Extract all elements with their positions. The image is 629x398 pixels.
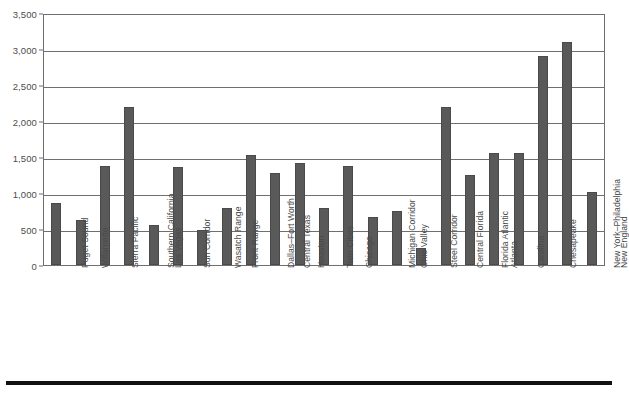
y-axis-tick-label: 2,500 [13, 81, 37, 92]
bar-slot [531, 15, 555, 265]
bars-layer [44, 15, 604, 265]
x-label-slot: Chesapeake [532, 268, 556, 373]
x-label-slot: Ohio Valley [385, 268, 409, 373]
bar-slot [44, 15, 68, 265]
x-label-slot: Michigan Corridor [361, 268, 385, 373]
x-axis-tick-label: Chesapeake [568, 219, 578, 268]
x-axis-tick-label: Dallas–Fort Worth [286, 198, 296, 268]
bar-slot [312, 15, 336, 265]
x-label-slot: Dallas–Fort Worth [239, 268, 263, 373]
x-label-slot: New York–Philadelphia [556, 268, 580, 373]
bar[interactable] [149, 225, 159, 265]
x-label-slot: Las Vegas [141, 268, 165, 373]
y-axis-tick-label: 1,500 [13, 153, 37, 164]
bar[interactable] [222, 208, 232, 265]
bar[interactable] [270, 173, 280, 265]
y-axis-tick-label: 1,000 [13, 189, 37, 200]
y-axis-tick-label: 3,500 [13, 9, 37, 20]
bar[interactable] [392, 211, 402, 265]
y-axis-tick-label: 500 [21, 225, 37, 236]
x-label-slot: Steel Corridor [410, 268, 434, 373]
x-label-slot: Front Range [214, 268, 238, 373]
x-label-slot: Willamette [67, 268, 91, 373]
x-label-slot: Puget Sound [43, 268, 67, 373]
bar-slot [385, 15, 409, 265]
x-axis-labels: Puget SoundWillametteSierra PacificSouth… [43, 268, 605, 373]
x-axis-tick-label: Sierra Pacific [130, 217, 140, 268]
x-axis-tick-label: Houston [316, 236, 326, 268]
x-axis-tick-label: Ohio Valley [419, 224, 429, 268]
x-label-slot: Sierra Pacific [92, 268, 116, 373]
x-axis-tick-label: Atlanta [509, 241, 519, 268]
x-axis-tick-label: Las Vegas [173, 227, 183, 268]
bar-slot [580, 15, 604, 265]
x-axis-tick-label: Front Range [250, 220, 260, 268]
x-axis-tick-label: Carolina [536, 236, 546, 268]
bar-slot [141, 15, 165, 265]
x-axis-tick-label: New England [619, 216, 629, 268]
x-axis-tick-label: Central Florida [475, 211, 485, 268]
x-axis-tick-label: Chicago [364, 236, 374, 268]
plot-area [43, 14, 605, 266]
x-label-slot: New England [581, 268, 605, 373]
x-label-slot: Houston [287, 268, 311, 373]
x-axis-tick-label: Twin Cities [345, 226, 355, 268]
x-label-slot: Twin Cities [312, 268, 336, 373]
bar[interactable] [51, 203, 61, 265]
bar[interactable] [465, 175, 475, 265]
x-label-slot: Atlanta [483, 268, 507, 373]
x-axis-tick-label: Puget Sound [80, 218, 90, 268]
x-label-slot: Chicago [336, 268, 360, 373]
x-label-slot: Central Texas [263, 268, 287, 373]
y-axis-tick-label: 0 [32, 261, 37, 272]
bar[interactable] [587, 192, 597, 265]
bottom-rule [6, 381, 612, 385]
x-axis-tick-label: Steel Corridor [449, 214, 459, 268]
x-label-slot: Carolina [507, 268, 531, 373]
bar-slot [263, 15, 287, 265]
x-axis-tick-label: Sun Corridor [202, 219, 212, 268]
bar[interactable] [538, 56, 548, 265]
bar[interactable] [489, 153, 499, 265]
y-axis-tick-label: 2,000 [13, 117, 37, 128]
x-label-slot: Southern California [116, 268, 140, 373]
y-axis-tick-label: 3,000 [13, 45, 37, 56]
x-label-slot: Central Florida [434, 268, 458, 373]
bar-slot [507, 15, 531, 265]
x-axis-tick-label: Michigan Corridor [407, 199, 417, 268]
x-label-slot: Sun Corridor [165, 268, 189, 373]
x-axis-tick-label: Willamette [100, 227, 110, 268]
x-axis-tick-label: Wasatch Range [233, 207, 243, 268]
bar-slot [360, 15, 384, 265]
y-axis: 3,5003,0002,5002,0001,5001,0005000 [0, 14, 43, 266]
x-label-slot: Florida Atlantic [458, 268, 482, 373]
x-axis-tick-label: Central Texas [302, 215, 312, 268]
x-label-slot: Wasatch Range [190, 268, 214, 373]
